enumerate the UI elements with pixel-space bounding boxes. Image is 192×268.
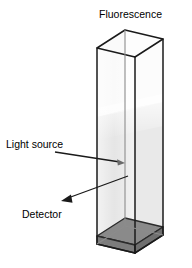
fluorescence-cuvette-diagram: Fluorescence Light source Detector <box>0 0 192 268</box>
light-source-label: Light source <box>6 138 63 150</box>
cuvette-illustration: Fluorescence Light source Detector <box>0 0 192 268</box>
detector-label: Detector <box>22 208 62 220</box>
fluorescence-title: Fluorescence <box>99 8 162 20</box>
